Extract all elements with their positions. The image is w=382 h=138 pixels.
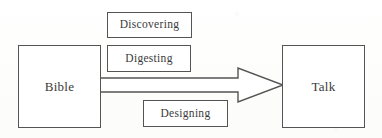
diagram-canvas: Bible Talk Discovering Digesting Designi… [0,0,382,138]
node-step-discovering-label: Discovering [120,19,180,31]
node-talk-label: Talk [311,79,335,95]
node-bible[interactable]: Bible [18,45,101,128]
node-bible-label: Bible [45,79,75,95]
node-talk[interactable]: Talk [282,45,365,128]
node-step-discovering[interactable]: Discovering [107,12,192,38]
node-step-digesting-label: Digesting [125,53,172,65]
node-step-designing-label: Designing [161,108,211,120]
node-step-designing[interactable]: Designing [143,100,228,127]
node-step-digesting[interactable]: Digesting [107,45,191,72]
